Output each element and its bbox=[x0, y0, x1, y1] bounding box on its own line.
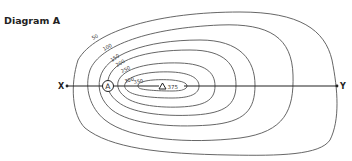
x-endpoint-dot bbox=[66, 85, 69, 88]
contour-label-50: 50 bbox=[91, 32, 100, 40]
contour-100 bbox=[88, 25, 293, 141]
contour-label-100: 100 bbox=[102, 42, 113, 52]
summit-height: 375 bbox=[168, 84, 179, 90]
x-label: X bbox=[58, 82, 65, 91]
contour-map: 50 100 150 200 250 300 350 X Y A 375 bbox=[0, 0, 352, 161]
contour-label-350: 350 bbox=[133, 77, 143, 85]
y-endpoint-dot bbox=[336, 85, 339, 88]
y-label: Y bbox=[339, 82, 346, 91]
point-a-label: A bbox=[105, 82, 111, 91]
